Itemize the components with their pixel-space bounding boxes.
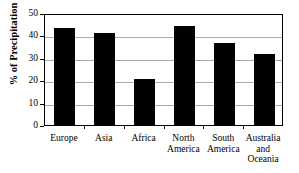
y-axis-tick-label: 20 [0, 76, 38, 86]
x-axis-category-label-line: Australia [236, 133, 290, 144]
gridline [45, 60, 282, 61]
y-axis-tick-mark [40, 126, 44, 127]
bar [174, 26, 195, 125]
x-axis-tick-mark [124, 126, 125, 129]
y-axis-tick-label-text: 20 [18, 76, 38, 86]
y-axis-tick-label: 0 [0, 121, 38, 131]
x-axis-tick-mark [203, 126, 204, 129]
y-axis-tick-label: 40 [0, 31, 38, 41]
y-axis-tick-label-text: 50 [18, 9, 38, 19]
x-axis-category-label-line: and [236, 144, 290, 155]
x-axis-tick-mark [164, 126, 165, 129]
x-axis-tick-mark [243, 126, 244, 129]
y-axis-tick-label-text: 0 [18, 121, 38, 131]
bar [54, 28, 75, 125]
y-axis-tick-label-text: 40 [18, 31, 38, 41]
bar [214, 43, 235, 125]
x-axis-tick-mark [84, 126, 85, 129]
plot-area [44, 14, 283, 126]
y-axis-tick-label: 30 [0, 54, 38, 64]
gridline [45, 37, 282, 38]
y-axis-tick-label: 50 [0, 9, 38, 19]
x-axis-category-label-line: Oceania [236, 154, 290, 165]
bar [94, 33, 115, 125]
gridline [45, 82, 282, 83]
y-axis-tick-label-text: 10 [18, 99, 38, 109]
bar [254, 54, 275, 125]
x-axis-category-label: AustraliaandOceania [236, 133, 290, 165]
gridline [45, 105, 282, 106]
y-axis-tick-label: 10 [0, 99, 38, 109]
bar [134, 79, 155, 125]
y-axis-tick-label-text: 30 [18, 54, 38, 64]
precipitation-bar-chart: % of Precipitation 01020304050 EuropeAsi… [0, 0, 299, 173]
